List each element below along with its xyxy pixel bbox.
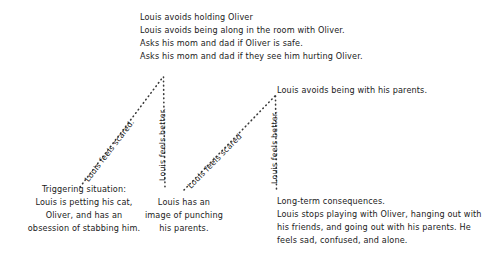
long-term-consequences-block: Long-term consequences.Louis stops playi… <box>277 195 493 247</box>
consequences-line-3: his friends, and going out with his pare… <box>277 222 471 232</box>
trigger-line-4: obsession of stabbing him. <box>28 223 140 233</box>
top-behaviours-line-2: Louis avoids being along in the room wit… <box>140 25 345 35</box>
second-obsession-block: Louis has animage of punchinghis parents… <box>132 196 236 235</box>
trigger-line-2: Louis is petting his cat, <box>35 197 132 207</box>
trigger-line-1: Triggering situation: <box>42 184 126 194</box>
triggering-situation-block: Triggering situation:Louis is petting hi… <box>18 183 150 235</box>
slope-label-fall-1: Louis feels better. <box>158 108 167 181</box>
obsession-line-1: Louis has an <box>158 197 210 207</box>
trigger-line-3: Oliver, and has an <box>46 210 123 220</box>
top-behaviours-line-4: Asks his mom and dad if they see him hur… <box>140 51 363 61</box>
consequences-line-2: Louis stops playing with Oliver, hanging… <box>277 209 482 219</box>
top-behaviours-line-3: Asks his mom and dad if Oliver is safe. <box>140 38 303 48</box>
peak2-caption-line-1: Louis avoids being with his parents. <box>277 85 427 95</box>
peak2-avoidance-caption: Louis avoids being with his parents. <box>277 84 427 97</box>
obsession-line-2: image of punching <box>145 210 223 220</box>
consequences-line-4: feels sad, confused, and alone. <box>277 235 408 245</box>
top-avoidance-behaviours-text: Louis avoids holding OliverLouis avoids … <box>140 11 363 63</box>
obsession-line-3: his parents. <box>159 223 208 233</box>
top-behaviours-line-1: Louis avoids holding Oliver <box>140 12 253 22</box>
slope-label-fall-2: Louis feels better. <box>270 111 279 184</box>
consequences-line-1: Long-term consequences. <box>277 196 385 206</box>
